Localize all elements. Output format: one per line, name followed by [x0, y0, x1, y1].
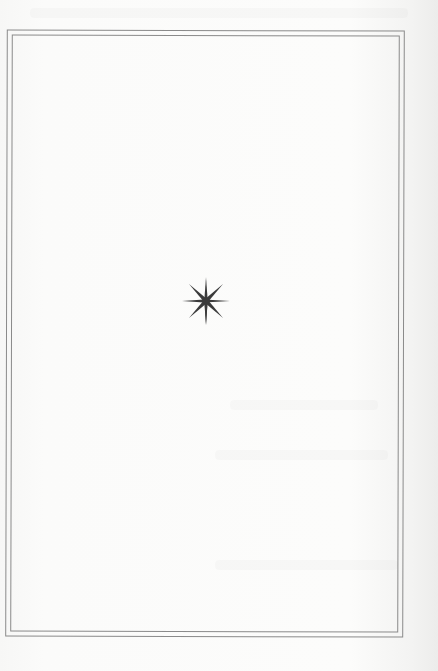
eight-pointed-star-icon — [182, 277, 230, 325]
book-page — [0, 0, 438, 671]
inner-border-rule — [10, 34, 400, 632]
bleed-through-text — [30, 8, 408, 18]
